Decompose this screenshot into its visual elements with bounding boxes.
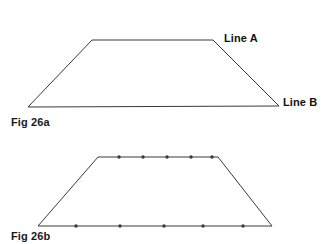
marker-dot xyxy=(189,155,192,158)
marker-dot xyxy=(117,155,120,158)
marker-dot xyxy=(162,224,165,227)
marker-dot xyxy=(210,155,213,158)
marker-dot xyxy=(241,224,244,227)
line-b-label: Line B xyxy=(283,96,317,108)
fig-26b-caption: Fig 26b xyxy=(11,230,50,242)
figure-canvas: Line A Line B Fig 26a Fig 26b xyxy=(0,0,331,244)
marker-dot xyxy=(74,224,77,227)
marker-dot xyxy=(201,224,204,227)
fig-26a-shape xyxy=(28,40,279,107)
fig-26a-trapezoid-outline xyxy=(28,40,279,107)
line-a-label: Line A xyxy=(224,32,258,44)
marker-dot xyxy=(141,155,144,158)
fig-26b-shape xyxy=(38,155,272,227)
marker-dot xyxy=(118,224,121,227)
fig-26a-caption: Fig 26a xyxy=(11,116,50,128)
marker-dot xyxy=(165,155,168,158)
fig-26b-trapezoid-outline xyxy=(38,157,272,226)
